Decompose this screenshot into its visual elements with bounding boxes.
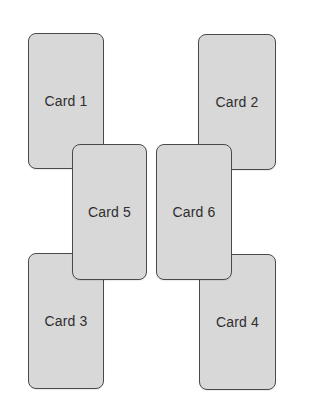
card-6-label: Card 6 — [172, 204, 215, 220]
card-3-label: Card 3 — [44, 313, 87, 329]
card-5[interactable]: Card 5 — [72, 144, 147, 280]
card-2-label: Card 2 — [215, 94, 258, 110]
card-4-label: Card 4 — [216, 314, 259, 330]
card-6[interactable]: Card 6 — [156, 144, 232, 280]
card-5-label: Card 5 — [88, 204, 131, 220]
card-1-label: Card 1 — [44, 93, 87, 109]
